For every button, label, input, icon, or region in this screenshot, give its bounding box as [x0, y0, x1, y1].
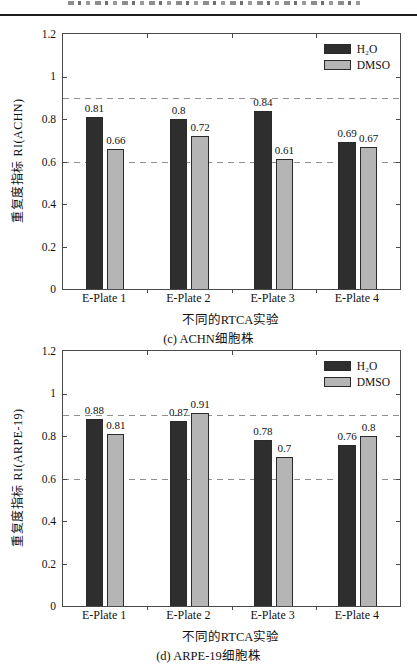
x-tick-labels: E-Plate 1E-Plate 2E-Plate 3E-Plate 4: [62, 608, 399, 623]
bar-dmso-2: [191, 136, 208, 289]
chart-c-achn: 重复度指标 RI(ACHN) H₂O DMSO 00.20.40.60.811.…: [0, 25, 417, 347]
value-label-h2o-1: 0.81: [74, 102, 114, 114]
plot-area: H₂O DMSO 00.20.40.60.811.20.880.810.870.…: [62, 350, 401, 607]
figure-page: 重复度指标 RI(ACHN) H₂O DMSO 00.20.40.60.811.…: [0, 0, 417, 667]
value-label-dmso-2: 0.91: [180, 398, 220, 410]
y-tick-label: 0.2: [20, 240, 56, 254]
x-tick-label-3: E-Plate 3: [231, 291, 315, 306]
x-axis-title: 不同的RTCA实验: [62, 309, 399, 328]
x-tick-label-4: E-Plate 4: [315, 291, 399, 306]
bar-group-4: 0.760.8: [316, 351, 400, 606]
bar-h2o-3: [254, 440, 271, 606]
bar-dmso-1: [107, 149, 124, 289]
bar-group-3: 0.780.7: [232, 351, 316, 606]
x-tick-label-3: E-Plate 3: [231, 608, 315, 623]
y-tick-label: 0.8: [20, 429, 56, 443]
bar-h2o-3: [254, 111, 271, 290]
value-label-h2o-1: 0.88: [74, 404, 114, 416]
header-rule: [0, 14, 417, 16]
bar-group-2: 0.870.91: [147, 351, 231, 606]
y-tick-label: 1.2: [20, 27, 56, 41]
clipped-running-header-text: [68, 1, 360, 5]
x-tick-label-2: E-Plate 2: [146, 291, 230, 306]
bar-group-3: 0.840.61: [232, 34, 316, 289]
x-axis-title: 不同的RTCA实验: [62, 626, 399, 645]
bar-h2o-1: [86, 419, 103, 606]
y-tick-label: 0.6: [20, 472, 56, 486]
panel-caption: (d) ARPE-19细胞株: [0, 645, 417, 664]
y-tick-label: 0: [20, 599, 56, 613]
x-tick-label-1: E-Plate 1: [62, 291, 146, 306]
value-label-h2o-3: 0.78: [243, 425, 283, 437]
y-tick-label: 0.4: [20, 197, 56, 211]
y-tick-label: 0.4: [20, 514, 56, 528]
y-tick-label: 0.8: [20, 112, 56, 126]
bar-h2o-2: [170, 119, 187, 289]
bar-dmso-3: [276, 457, 293, 606]
chart-d-arpe19: 重复度指标 RI(ARPE-19) H₂O DMSO 00.20.40.60.8…: [0, 342, 417, 664]
value-label-dmso-3: 0.7: [264, 442, 304, 454]
bar-group-1: 0.810.66: [63, 34, 147, 289]
bar-dmso-2: [191, 413, 208, 606]
value-label-dmso-1: 0.66: [96, 134, 136, 146]
bar-dmso-4: [360, 436, 377, 606]
bar-h2o-4: [338, 142, 355, 289]
bar-dmso-3: [276, 159, 293, 289]
y-tick-label: 1: [20, 386, 56, 400]
y-tick-label: 1.2: [20, 344, 56, 358]
value-label-dmso-1: 0.81: [96, 419, 136, 431]
x-tick-label-1: E-Plate 1: [62, 608, 146, 623]
y-tick-label: 0.2: [20, 557, 56, 571]
bar-dmso-4: [360, 147, 377, 289]
x-tick-label-2: E-Plate 2: [146, 608, 230, 623]
bar-h2o-2: [170, 421, 187, 606]
bar-dmso-1: [107, 434, 124, 606]
bar-group-1: 0.880.81: [63, 351, 147, 606]
value-label-dmso-2: 0.72: [180, 121, 220, 133]
y-tick-label: 1: [20, 69, 56, 83]
x-tick-label-4: E-Plate 4: [315, 608, 399, 623]
value-label-dmso-3: 0.61: [264, 144, 304, 156]
bar-group-2: 0.80.72: [147, 34, 231, 289]
plot-area: H₂O DMSO 00.20.40.60.811.20.810.660.80.7…: [62, 33, 401, 290]
value-label-dmso-4: 0.67: [349, 132, 389, 144]
bar-group-4: 0.690.67: [316, 34, 400, 289]
y-tick-label: 0: [20, 282, 56, 296]
value-label-dmso-4: 0.8: [349, 421, 389, 433]
x-tick-labels: E-Plate 1E-Plate 2E-Plate 3E-Plate 4: [62, 291, 399, 306]
value-label-h2o-2: 0.8: [159, 104, 199, 116]
bar-h2o-4: [338, 445, 355, 607]
y-tick-label: 0.6: [20, 155, 56, 169]
value-label-h2o-3: 0.84: [243, 96, 283, 108]
